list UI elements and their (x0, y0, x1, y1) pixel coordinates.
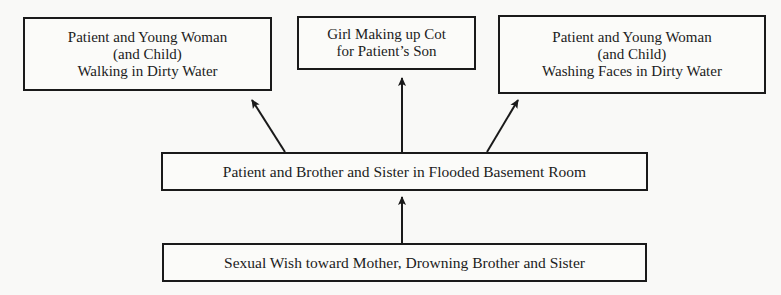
node-line: Patient and Young Woman (552, 29, 711, 46)
node-line: Patient and Young Woman (68, 29, 227, 46)
node-sexual-wish: Sexual Wish toward Mother, Drowning Brot… (162, 243, 647, 282)
node-line: Washing Faces in Dirty Water (542, 63, 722, 80)
node-line: (and Child) (113, 46, 182, 63)
node-line: Girl Making up Cot (327, 26, 446, 43)
node-girl-making-cot: Girl Making up Cot for Patient’s Son (297, 16, 476, 70)
node-line: for Patient’s Son (337, 43, 437, 60)
arrow-middle-to-top-right (487, 100, 518, 152)
arrow-middle-to-top-left (252, 100, 285, 152)
node-line: (and Child) (598, 46, 667, 63)
node-walking-in-dirty-water: Patient and Young Woman (and Child) Walk… (23, 17, 272, 91)
node-flooded-basement-room: Patient and Brother and Sister in Floode… (161, 152, 648, 191)
node-line: Patient and Brother and Sister in Floode… (223, 163, 586, 180)
node-line: Walking in Dirty Water (77, 63, 217, 80)
node-washing-faces-in-dirty-water: Patient and Young Woman (and Child) Wash… (498, 15, 766, 94)
node-line: Sexual Wish toward Mother, Drowning Brot… (224, 254, 585, 271)
